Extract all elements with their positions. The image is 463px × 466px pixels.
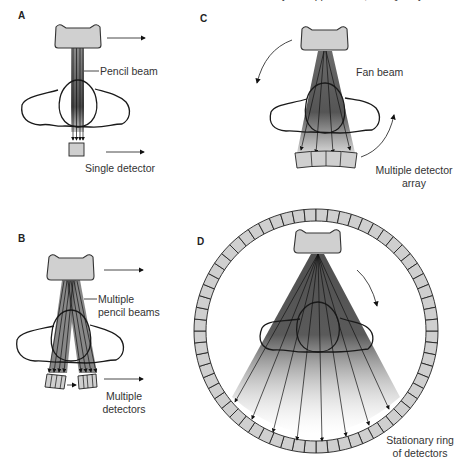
panel-b: B xyxy=(17,233,160,415)
ring-detector-element xyxy=(195,342,209,355)
single-detector xyxy=(69,143,84,156)
panel-d: D Stationary ring of detectors xyxy=(194,209,454,459)
detector-group-left xyxy=(45,374,66,389)
panel-letter-a: A xyxy=(18,10,25,21)
label-pencil-beam: Pencil beam xyxy=(100,65,158,77)
label-single-detector: Single detector xyxy=(85,162,156,174)
ring-detector-element xyxy=(425,319,438,331)
label-fan-beam: Fan beam xyxy=(356,66,404,78)
panel-letter-d: D xyxy=(197,236,204,247)
label-stationary-ring-line1: Stationary ring xyxy=(386,434,454,446)
panel-a: A Pencil beam Single detector xyxy=(18,10,158,174)
ring-detector-element xyxy=(424,307,438,320)
detector-array xyxy=(295,151,357,168)
ring-detector-element xyxy=(304,209,316,222)
ring-detector-element xyxy=(292,210,305,224)
ring-detector-element xyxy=(194,319,207,331)
label-stationary-ring-line2: of detectors xyxy=(393,447,448,459)
panel-letter-c: C xyxy=(200,13,207,24)
label-multiple-detectors-line1: Multiple xyxy=(106,390,142,402)
rotation-arrow xyxy=(361,115,394,157)
ring-detector-element xyxy=(327,439,340,453)
label-detector-array-line1: Multiple detector xyxy=(375,164,453,176)
label-multiple-detectors-line2: detectors xyxy=(102,403,145,415)
panel-c: C Fan beam Multiple detector array xyxy=(200,13,453,189)
panel-letter-b: B xyxy=(18,233,25,244)
x-ray-tube-icon xyxy=(47,255,94,280)
rotation-arrow xyxy=(257,40,292,83)
rotation-arrow xyxy=(357,270,377,306)
ring-detector-element xyxy=(316,440,328,453)
ring-detector-element xyxy=(304,440,316,453)
header-fragment: ... Physics Applications, and Quality Co… xyxy=(257,0,460,1)
ring-detector-element xyxy=(425,331,438,343)
x-ray-tube-icon xyxy=(55,25,101,48)
ring-detector-element xyxy=(194,331,207,343)
ring-detector-element xyxy=(316,209,328,222)
detector-group-right xyxy=(78,374,97,389)
label-multiple-pencil-beams-line2: pencil beams xyxy=(98,306,160,318)
x-ray-tube-icon xyxy=(301,27,348,50)
ct-generations-diagram: ... Physics Applications, and Quality Co… xyxy=(0,0,463,466)
label-multiple-pencil-beams-line1: Multiple xyxy=(98,293,134,305)
label-detector-array-line2: array xyxy=(402,177,427,189)
x-ray-tube-icon xyxy=(294,230,341,253)
